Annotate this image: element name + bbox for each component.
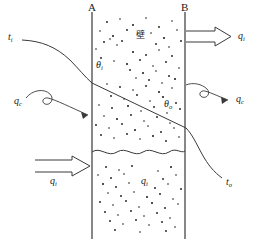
q-inflow-sub: i — [55, 180, 57, 187]
outer-surface-temperature-label: θo — [164, 99, 172, 110]
outer-fluid-temperature-label: to — [226, 177, 232, 188]
q-conv-left-sub: c — [19, 100, 22, 107]
heat-transfer-wall-diagram: A B 壁 ti to θi θo qi qc qc qi qi — [0, 0, 257, 241]
inner-surface-temperature-label: θi — [96, 60, 103, 71]
inflow-heat-flux-label-bottom: qi — [50, 176, 57, 187]
q-conv-right-sub: c — [241, 98, 244, 105]
theta-outer-sub: o — [169, 103, 172, 110]
inflow-arrow-bottom-left — [35, 156, 90, 176]
theta-inner-sub: i — [101, 64, 103, 71]
convection-heat-flux-label-right: qc — [236, 94, 244, 105]
convection-arrowhead-right — [221, 97, 228, 104]
wall-label-b: B — [181, 2, 188, 13]
outflow-arrow-top-right — [186, 27, 231, 46]
t-inner-sub: i — [11, 36, 13, 43]
outer-fluid-temperature-curve — [186, 128, 222, 178]
wavy-interface-line — [92, 150, 185, 154]
interior-heat-flux-label-bottom: qi — [141, 176, 148, 187]
convection-arrow-left — [26, 91, 88, 115]
outflow-heat-flux-label-top: qi — [238, 31, 245, 42]
q-outflow-sub: i — [243, 35, 245, 42]
diagram-canvas — [0, 0, 257, 241]
wall-stipple-pattern — [95, 17, 182, 233]
wall-annotation-label: 壁 — [136, 31, 145, 40]
convection-heat-flux-label-left: qc — [14, 96, 22, 107]
wall-label-a: A — [88, 2, 96, 13]
q-interior-sub: i — [146, 180, 148, 187]
inner-fluid-temperature-label: ti — [8, 32, 13, 43]
inner-fluid-temperature-curve — [22, 40, 92, 83]
t-outer-sub: o — [229, 181, 232, 188]
